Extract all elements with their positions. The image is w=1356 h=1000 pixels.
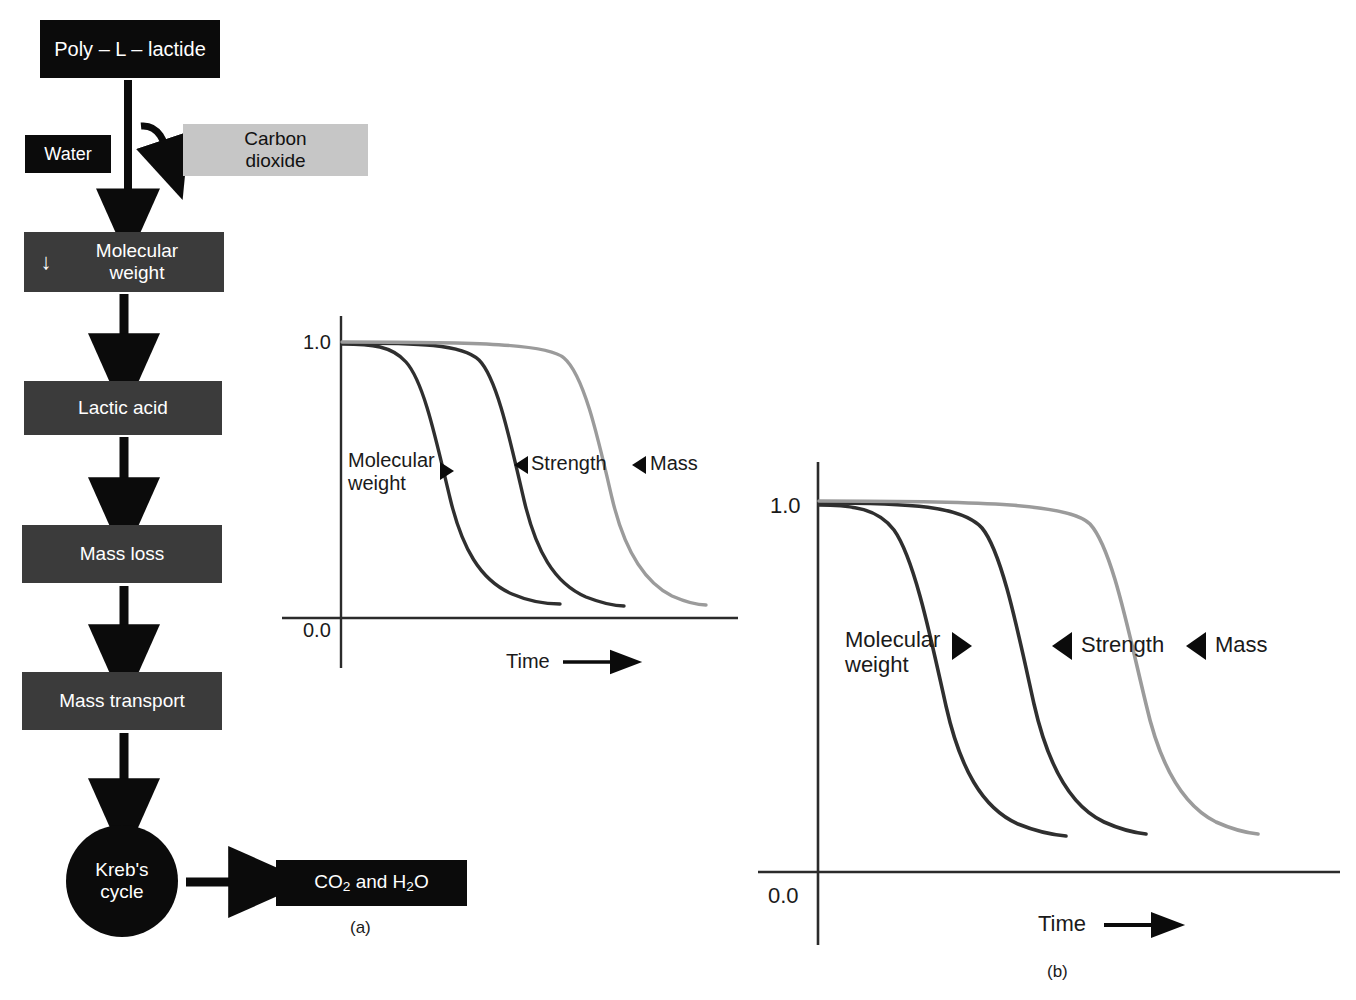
node-water[interactable]: Water: [25, 135, 111, 173]
chart-a-marker-mass: [632, 456, 646, 474]
chart-b-marker-molecular-weight: [952, 632, 972, 660]
panel-caption-b: (b): [1047, 962, 1068, 982]
chart-a-annotation-molecular-weight-line2: weight: [348, 472, 435, 495]
chart-b-marker-strength: [1052, 632, 1072, 660]
node-krebs-cycle[interactable]: Kreb's cycle: [66, 825, 178, 937]
chart-b-annotation-molecular-weight: Molecular weight Molecular weight: [845, 627, 940, 678]
node-lactic-acid-label: Lactic acid: [24, 381, 222, 435]
node-molecular-weight-label: Molecular weight: [50, 232, 224, 292]
node-carbon-dioxide[interactable]: Carbon dioxide: [183, 124, 368, 176]
node-mass-loss-label: Mass loss: [22, 525, 222, 583]
chart-a-ytick-1: 1.0: [303, 331, 331, 354]
chart-a-annotation-strength: Strength: [531, 452, 607, 475]
node-carbon-dioxide-label: Carbon dioxide: [183, 124, 368, 176]
node-mass-transport-label: Mass transport: [22, 672, 222, 730]
chart-b-annotation-strength: Strength: [1081, 632, 1164, 657]
chart-a-annotation-molecular-weight-line1: Molecular: [348, 449, 435, 472]
node-water-label: Water: [25, 135, 111, 173]
chart-b-marker-mass: [1186, 632, 1206, 660]
chart-a-annotation-mass: Mass: [650, 452, 698, 475]
node-lactic-acid[interactable]: Lactic acid: [24, 381, 222, 435]
panel-caption-a: (a): [350, 918, 371, 938]
chart-b-ytick-0: 0.0: [768, 883, 799, 909]
chart-a-annotation-molecular-weight: Molecular weight Molecular weight: [348, 449, 435, 495]
chart-b-annotation-mass: Mass: [1215, 632, 1268, 657]
chart-a-marker-molecular-weight: [440, 462, 454, 480]
chart-b-annotation-molecular-weight-line2: weight: [845, 652, 940, 677]
flowchart-edges: [124, 80, 266, 882]
node-poly-l-lactide[interactable]: Poly – L – lactide: [40, 20, 220, 78]
chart-b: [758, 462, 1340, 945]
node-co2-and-h2o-label: CO2 and H2O: [276, 860, 467, 906]
node-co2-and-h2o[interactable]: CO2 and H2O: [276, 860, 467, 906]
node-molecular-weight[interactable]: ↓ Molecular weight: [24, 232, 224, 292]
node-mass-transport[interactable]: Mass transport: [22, 672, 222, 730]
node-molecular-weight-arrow-glyph: ↓: [34, 232, 58, 292]
chart-a-xlabel: Time: [506, 650, 550, 673]
node-poly-l-lactide-label: Poly – L – lactide: [40, 20, 220, 78]
node-mass-loss[interactable]: Mass loss: [22, 525, 222, 583]
chart-b-xlabel: Time: [1038, 911, 1086, 937]
chart-a-ytick-0: 0.0: [303, 619, 331, 642]
chart-b-ytick-1: 1.0: [770, 493, 801, 519]
edge-water-to-carbon-dioxide: [141, 126, 172, 168]
chart-b-annotation-molecular-weight-line1: Molecular: [845, 627, 940, 652]
node-krebs-cycle-label: Kreb's cycle: [66, 825, 178, 937]
